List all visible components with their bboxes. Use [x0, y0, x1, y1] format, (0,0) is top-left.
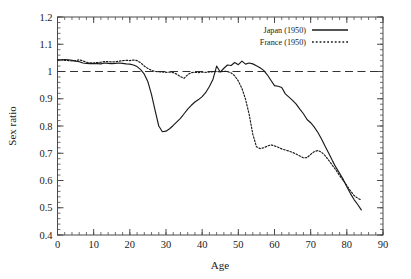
- y-tick-label: 0.5: [39, 202, 52, 213]
- x-tick-label: 80: [342, 239, 353, 250]
- x-tick-label: 60: [269, 239, 280, 250]
- x-tick-label: 10: [88, 239, 99, 250]
- x-tick-label: 40: [197, 239, 208, 250]
- y-tick-label: 1.1: [39, 39, 52, 50]
- y-axis-tick-labels: 0.40.50.60.70.80.911.11.2: [39, 12, 53, 241]
- legend-label-france: France (1950): [260, 38, 306, 47]
- x-tick-label: 50: [233, 239, 244, 250]
- y-tick-label: 1.2: [39, 12, 52, 23]
- x-tick-label: 70: [305, 239, 316, 250]
- y-tick-label: 1: [47, 66, 52, 77]
- x-tick-label: 0: [55, 239, 60, 250]
- x-tick-label: 30: [161, 239, 172, 250]
- y-tick-label: 0.7: [39, 148, 52, 159]
- y-tick-label: 0.8: [39, 121, 52, 132]
- x-tick-label: 20: [125, 239, 136, 250]
- y-axis-title: Sex ratio: [6, 106, 18, 146]
- chart-figure: 0102030405060708090 0.40.50.60.70.80.911…: [0, 0, 411, 279]
- y-tick-label: 0.6: [39, 175, 52, 186]
- y-tick-label: 0.9: [39, 93, 52, 104]
- sex-ratio-line-chart: 0102030405060708090 0.40.50.60.70.80.911…: [0, 0, 411, 279]
- x-tick-label: 90: [378, 239, 389, 250]
- y-tick-label: 0.4: [39, 230, 53, 241]
- legend-label-japan: Japan (1950): [263, 26, 306, 35]
- chart-background: [0, 0, 411, 279]
- x-axis-title: Age: [211, 259, 229, 271]
